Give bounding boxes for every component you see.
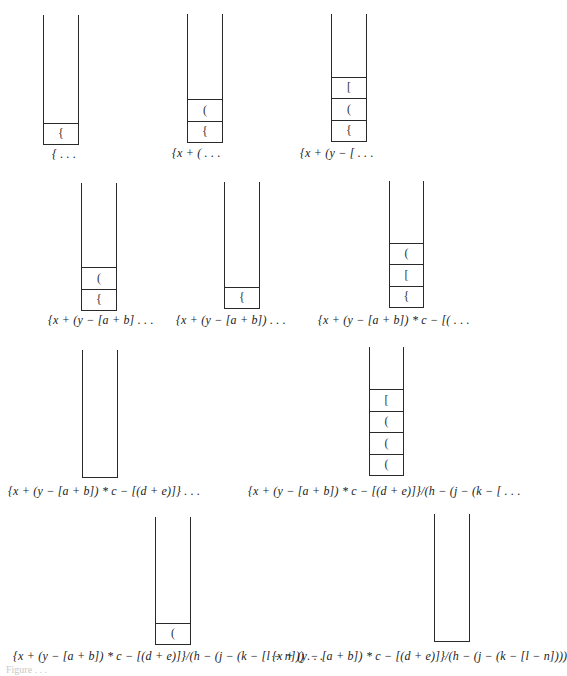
stack-cell: [ xyxy=(332,77,366,99)
stack-cell: { xyxy=(188,121,222,143)
stack-cells: ( xyxy=(156,623,190,645)
expression-label: {x + (y − [a + b]) * c − [(d + e)]}/(h −… xyxy=(272,649,567,664)
stack-cell: { xyxy=(332,120,366,142)
stack-cells: {( xyxy=(188,99,222,142)
stack-cell: ( xyxy=(332,98,366,120)
stack-4: {( xyxy=(81,183,117,311)
expression-label: {x + (y − [a + b]) * c − [(d + e)]}/(h −… xyxy=(248,484,521,499)
stack-cells: { xyxy=(225,287,259,309)
stack-cell: ( xyxy=(370,432,403,454)
expression-label: {x + (y − [a + b]) * c − [( . . . xyxy=(318,313,470,328)
stack-3: {([ xyxy=(331,14,367,142)
stack-cells: {( xyxy=(82,267,116,310)
stack-cell: { xyxy=(225,287,259,309)
stack-cells: {([ xyxy=(332,77,366,142)
stack-cell: ( xyxy=(390,243,423,265)
expression-label: { . . . xyxy=(52,147,76,162)
stack-cell: ( xyxy=(82,267,116,289)
figure-caption: Figure . . . xyxy=(6,664,47,675)
stack-cell: ( xyxy=(156,623,190,645)
stack-cell: ( xyxy=(370,454,403,476)
stack-cell: ( xyxy=(188,99,222,121)
stack-8: ((([ xyxy=(369,347,404,476)
stack-cell: [ xyxy=(390,264,423,286)
stack-cell: { xyxy=(44,123,78,145)
stack-5: { xyxy=(224,182,260,309)
stack-cell: { xyxy=(390,286,423,308)
stack-cell: { xyxy=(82,289,116,311)
stack-6: {[( xyxy=(389,181,424,308)
stack-cells: ((([ xyxy=(370,389,403,475)
stack-1: { xyxy=(43,15,79,145)
expression-label: {x + (y − [a + b]) . . . xyxy=(176,313,286,328)
expression-label: {x + (y − [a + b] . . . xyxy=(48,313,154,328)
stack-10 xyxy=(434,514,470,642)
stack-2: {( xyxy=(187,14,223,143)
stack-cell: [ xyxy=(370,389,403,411)
stack-cells: { xyxy=(44,123,78,145)
stack-9: ( xyxy=(155,517,191,645)
expression-label: {x + (y − [a + b]) * c − [(d + e)]} . . … xyxy=(8,484,200,499)
stack-7 xyxy=(82,350,118,478)
expression-label: {x + ( . . . xyxy=(172,146,221,161)
stack-cells: {[( xyxy=(390,243,423,308)
stack-cell: ( xyxy=(370,411,403,433)
expression-label: {x + (y − [ . . . xyxy=(300,146,374,161)
